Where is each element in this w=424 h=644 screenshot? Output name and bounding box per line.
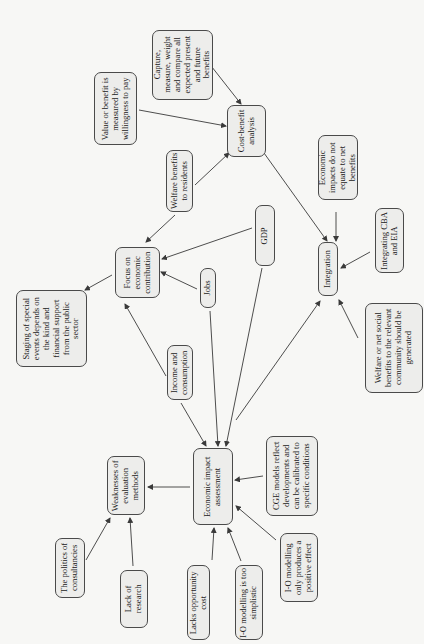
node-focus: Focus on economic contribution: [115, 247, 160, 298]
node-label: Value or benefit is measured by willingn…: [101, 75, 131, 143]
edge-income-to-eia: [181, 403, 206, 446]
node-staging: Staging of special events depends on the…: [16, 290, 87, 367]
edge-focus-to-staging: [85, 275, 112, 290]
edge-cge-to-eia: [235, 476, 263, 480]
node-label: CGE models reflect developments and can …: [272, 438, 312, 514]
node-eia: Economic impact assessment: [193, 448, 233, 525]
edge-welfare-res-to-cba: [195, 153, 229, 185]
node-io-simplistic: I-O modelling is too simplistic: [235, 565, 263, 640]
edge-lacks-opp-to-eia: [212, 528, 214, 560]
edge-welfare-net-to-integration: [339, 300, 358, 338]
node-econ-impacts: Economic impacts do not equate to net be…: [318, 135, 358, 200]
edge-integrating-to-integration: [341, 252, 370, 268]
node-welfare-net: Welfare or net social benefits to the re…: [365, 303, 423, 393]
node-label: Welfare benefits to residents: [170, 152, 190, 210]
node-label: The politics of consultancies: [60, 540, 80, 596]
edge-jobs-to-focus: [161, 272, 197, 289]
node-io-positive: I-O modelling only produces a positive e…: [280, 533, 318, 602]
node-label: Cost-benefit analysis: [237, 108, 257, 154]
node-lacks-opp: Lacks opportunity cost: [187, 565, 210, 640]
node-label: Jobs: [203, 270, 213, 306]
node-label: Staging of special events depends on the…: [22, 294, 81, 364]
node-label: Welfare or net social benefits to the re…: [374, 306, 414, 390]
node-label: GDP: [260, 216, 270, 256]
node-lack-research: Lack of research: [120, 570, 148, 628]
edge-eia-to-integration: [236, 301, 320, 420]
node-label: Economic impact assessment: [203, 451, 223, 523]
edge-politics-to-weaknesses: [86, 518, 110, 560]
concept-map-canvas: Capture, measure, weight and compare all…: [0, 0, 424, 644]
node-integration: Integration: [318, 242, 338, 296]
node-label: I-O modelling only produces a positive e…: [284, 536, 314, 600]
edge-welfare-res-to-focus: [146, 215, 175, 242]
node-politics: The politics of consultancies: [55, 538, 85, 598]
edge-jobs-to-eia: [210, 311, 218, 446]
node-weaknesses: Weaknesses of evaluation methods: [107, 456, 145, 515]
node-income: Income and consumption: [167, 345, 193, 400]
node-label: Income and consumption: [170, 347, 190, 399]
node-gdp: GDP: [255, 205, 275, 266]
node-cge: CGE models reflect developments and can …: [266, 436, 318, 516]
node-label: Weaknesses of evaluation methods: [111, 458, 141, 514]
edge-value-to-cba: [139, 110, 226, 126]
node-jobs: Jobs: [200, 268, 216, 308]
edge-lack-research-to-weaknesses: [130, 518, 133, 566]
node-label: Economic impacts do not equate to net be…: [318, 138, 358, 198]
node-capture: Capture, measure, weight and compare all…: [152, 30, 213, 100]
node-label: Lack of research: [124, 574, 144, 624]
edge-io-simplistic-to-eia: [228, 528, 241, 561]
node-cba: Cost-benefit analysis: [227, 105, 266, 157]
node-label: Lacks opportunity cost: [189, 567, 209, 639]
node-welfare-res: Welfare benefits to residents: [166, 150, 193, 212]
node-integrating: Integrating CBA and EIA: [375, 208, 404, 273]
edge-income-to-focus: [125, 304, 166, 376]
node-value: Value or benefit is measured by willingn…: [94, 72, 137, 145]
node-label: Integration: [323, 244, 333, 294]
node-label: I-O modelling is too simplistic: [239, 567, 259, 639]
edge-gdp-to-focus: [162, 228, 252, 259]
node-label: Integrating CBA and EIA: [380, 212, 400, 270]
node-label: Focus on economic contribution: [123, 249, 153, 297]
edge-gdp-to-eia: [226, 268, 262, 446]
node-label: Capture, measure, weight and compare all…: [153, 34, 212, 96]
